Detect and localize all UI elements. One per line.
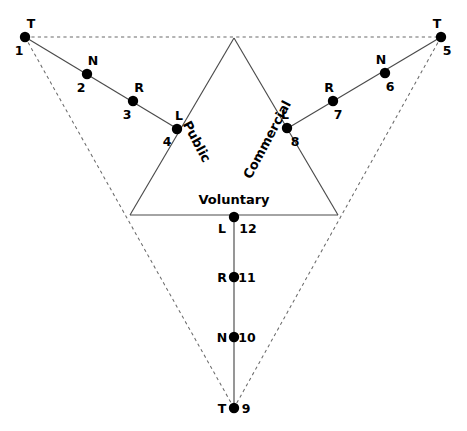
- node-dot-icon-7: [328, 96, 338, 106]
- node-letter-1: T: [27, 16, 36, 31]
- node-number-12: 12: [239, 221, 256, 236]
- node-dot-icon-1: [20, 32, 30, 42]
- node-letter-11: R: [217, 270, 227, 285]
- node-number-8: 8: [291, 134, 300, 149]
- node-letter-8: L: [281, 107, 289, 122]
- node-number-10: 10: [238, 330, 256, 345]
- node-letter-7: R: [324, 80, 334, 95]
- node-10[interactable]: N10: [217, 330, 256, 345]
- diagram-canvas: PublicCommercialVoluntary T1N2R3L4T5N6R7…: [0, 0, 467, 431]
- node-7[interactable]: R7: [324, 80, 342, 122]
- node-letter-4: L: [175, 108, 183, 123]
- solid-segment-commercial-branch: [283, 37, 441, 131]
- triangle-diagram: PublicCommercialVoluntary T1N2R3L4T5N6R7…: [0, 0, 467, 431]
- node-letter-9: T: [218, 401, 227, 416]
- dashed-segment-outer-right-side: [234, 37, 441, 408]
- nodes-group: T1N2R3L4T5N6R7L8T9N10R11L12: [15, 16, 452, 416]
- solid-lines-group: [25, 37, 441, 408]
- node-number-1: 1: [15, 43, 24, 58]
- node-8[interactable]: L8: [281, 107, 299, 149]
- node-3[interactable]: R3: [123, 80, 145, 122]
- node-letter-12: L: [218, 221, 226, 236]
- sector-labels-group: PublicCommercialVoluntary: [180, 98, 294, 207]
- node-letter-10: N: [217, 330, 227, 345]
- node-number-2: 2: [77, 80, 86, 95]
- node-6[interactable]: N6: [376, 52, 395, 94]
- node-number-7: 7: [334, 107, 343, 122]
- node-dot-icon-2: [82, 69, 92, 79]
- node-letter-6: N: [376, 52, 386, 67]
- node-number-5: 5: [443, 43, 452, 58]
- node-letter-2: N: [88, 53, 98, 68]
- node-dot-icon-3: [128, 96, 138, 106]
- solid-segment-public-branch: [25, 37, 181, 131]
- node-number-11: 11: [238, 270, 255, 285]
- node-dot-icon-12: [229, 212, 239, 222]
- node-number-3: 3: [123, 107, 132, 122]
- node-letter-3: R: [134, 80, 144, 95]
- node-dot-icon-5: [436, 32, 446, 42]
- node-dot-icon-6: [380, 68, 390, 78]
- node-number-4: 4: [163, 134, 172, 149]
- node-2[interactable]: N2: [77, 53, 99, 95]
- node-11[interactable]: R11: [217, 270, 256, 285]
- node-dot-icon-4: [172, 124, 182, 134]
- dashed-segment-outer-left-side: [25, 37, 234, 408]
- sector-label-voluntary: Voluntary: [198, 192, 270, 207]
- node-dot-icon-9: [229, 403, 239, 413]
- node-number-6: 6: [386, 79, 395, 94]
- node-dot-icon-8: [282, 123, 292, 133]
- node-letter-5: T: [433, 16, 442, 31]
- sector-label-public: Public: [180, 118, 214, 165]
- outer-triangle-dashed-lines: [25, 37, 441, 408]
- node-number-9: 9: [242, 401, 251, 416]
